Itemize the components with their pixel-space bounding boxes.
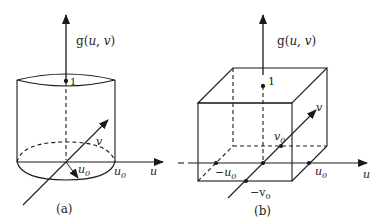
point-neg-u0 — [215, 162, 218, 165]
v-label: v — [96, 135, 103, 148]
u-label: u — [363, 168, 370, 181]
panel-a-labels: g(u, v) 1 v u u0 u0 (a) — [56, 34, 157, 216]
caption-a: (a) — [56, 202, 73, 216]
cylinder-base-front — [17, 162, 115, 180]
point-u0 — [308, 162, 311, 165]
point-neg-v0 — [245, 180, 248, 183]
neg-u0-label: −u0 — [215, 166, 236, 181]
one-label: 1 — [70, 76, 76, 87]
point-one — [261, 84, 264, 87]
neg-v0-label: −v0 — [250, 186, 271, 201]
u-label: u — [150, 165, 157, 178]
point-origin — [262, 162, 265, 165]
v-label: v — [316, 101, 323, 114]
radius-arrow — [66, 162, 78, 178]
point-one — [64, 79, 67, 82]
u0-edge-label: u0 — [114, 165, 126, 180]
one-label: 1 — [268, 75, 275, 88]
v-axis — [228, 110, 316, 198]
caption-b: (b) — [254, 204, 271, 218]
u0-label: u0 — [315, 165, 327, 180]
g-uv-label: g(u, v) — [277, 34, 316, 48]
figure: g(u, v) 1 v u u0 u0 (a) g(u, v — [0, 0, 383, 224]
u0-radius-label: u0 — [78, 163, 90, 178]
v0-label: v0 — [274, 130, 285, 145]
g-uv-label: g(u, v) — [76, 34, 115, 48]
